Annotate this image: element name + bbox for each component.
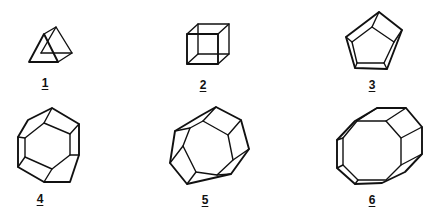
figure-4-label: 4 — [30, 192, 50, 206]
prism-diagram: 1 2 3 4 5 6 — [0, 0, 440, 217]
prism-drawings — [0, 0, 440, 217]
figure-2-label: 2 — [193, 78, 213, 92]
figure-5-heptagonal-prism — [170, 107, 249, 184]
figure-3-pentagonal-prism — [346, 12, 402, 69]
figure-3-label: 3 — [362, 78, 382, 92]
figure-2-cube — [187, 24, 229, 64]
figure-1-triangular-prism — [29, 27, 72, 62]
figure-6-label: 6 — [362, 193, 382, 207]
figure-5-label: 5 — [195, 193, 215, 207]
figure-1-label: 1 — [35, 76, 55, 90]
figure-6-octagonal-prism — [337, 108, 422, 184]
figure-4-hexagonal-prism — [18, 108, 79, 182]
